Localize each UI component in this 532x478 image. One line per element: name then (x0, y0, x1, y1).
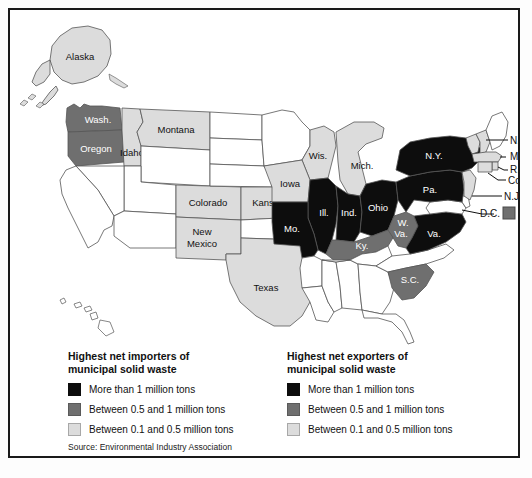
label-virginia: Va. (427, 228, 441, 239)
label-colorado: Colorado (189, 197, 228, 208)
label-michigan: Mich. (351, 160, 374, 171)
legend-exporters-heading: Highest net exporters of municipal solid… (287, 350, 512, 375)
label-wisconsin: Wis. (309, 150, 327, 161)
state-massachusetts[interactable] (472, 152, 502, 162)
swatch-low-icon (68, 423, 81, 436)
state-washington[interactable]: Wash. (66, 104, 122, 132)
alaska-shape (32, 26, 111, 106)
label-illinois: Ill. (319, 207, 329, 218)
legend-item-exporters-low[interactable]: Between 0.1 and 0.5 million tons (287, 422, 512, 436)
state-montana[interactable]: Montana (137, 109, 210, 150)
florida-shape (362, 310, 414, 344)
legend-item-importers-mid[interactable]: Between 0.5 and 1 million tons (68, 402, 283, 416)
swatch-mid-icon (287, 403, 300, 416)
label-iowa: Iowa (280, 178, 301, 189)
state-oregon[interactable]: Oregon (68, 130, 124, 166)
state-rhode-island[interactable] (492, 162, 498, 170)
leader-rhode-island (498, 167, 508, 170)
map-frame: Alaska Wash. Oregon Idaho (8, 8, 520, 458)
label-ohio: Ohio (368, 202, 388, 213)
hawaii-shape (60, 298, 114, 336)
state-north-dakota[interactable] (210, 112, 262, 140)
swatch-high-icon (68, 383, 81, 396)
state-florida[interactable] (362, 310, 414, 344)
state-new-mexico[interactable]: New Mexico (176, 217, 241, 260)
label-new-mexico-line1: New (192, 226, 211, 237)
state-wyoming[interactable] (141, 146, 210, 186)
label-south-carolina: S.C. (401, 274, 419, 285)
legend-exporters: Highest net exporters of municipal solid… (287, 350, 512, 442)
legend-item-importers-low[interactable]: Between 0.1 and 0.5 million tons (68, 422, 283, 436)
label-new-york: N.Y. (425, 150, 442, 161)
minnesota-shape (262, 110, 310, 166)
label-montana: Montana (158, 124, 196, 135)
legend-exporters-mid-label: Between 0.5 and 1 million tons (308, 404, 444, 415)
legend-importers-high-label: More than 1 million tons (89, 384, 195, 395)
leader-connecticut (488, 173, 506, 180)
state-arkansas[interactable] (300, 256, 322, 288)
state-hawaii[interactable] (60, 298, 114, 336)
south-dakota-shape (210, 138, 264, 166)
legend-item-exporters-mid[interactable]: Between 0.5 and 1 million tons (287, 402, 512, 416)
label-new-jersey: N.J. (504, 191, 518, 202)
massachusetts-shape (472, 152, 502, 162)
legend-importers-heading: Highest net importers of municipal solid… (68, 350, 283, 375)
legend-item-exporters-high[interactable]: More than 1 million tons (287, 382, 512, 396)
label-texas: Texas (254, 282, 279, 293)
label-pennsylvania: Pa. (423, 184, 437, 195)
swatch-mid-icon (68, 403, 81, 416)
legend-exporters-high-label: More than 1 million tons (308, 384, 414, 395)
rhode-island-shape (492, 162, 498, 170)
label-connecticut: Conn. (508, 175, 518, 186)
label-district-of-columbia: D.C. (480, 208, 500, 219)
nebraska-shape (210, 164, 272, 187)
state-nebraska[interactable] (210, 164, 272, 187)
wyoming-shape (141, 146, 210, 186)
arizona-shape (114, 211, 176, 248)
label-alaska: Alaska (66, 51, 95, 62)
us-choropleth-map: Alaska Wash. Oregon Idaho (10, 10, 518, 346)
map-legend: Highest net importers of municipal solid… (10, 346, 518, 456)
arkansas-shape (300, 256, 322, 288)
legend-item-importers-high[interactable]: More than 1 million tons (68, 382, 283, 396)
label-massachusetts: Mass. (510, 151, 518, 162)
state-alaska[interactable]: Alaska (20, 26, 128, 108)
label-indiana: Ind. (341, 207, 357, 218)
state-connecticut[interactable] (478, 162, 492, 172)
label-kentucky: Ky. (355, 240, 368, 251)
state-arizona[interactable] (114, 211, 176, 248)
source-attribution: Source: Environmental Industry Associati… (68, 442, 232, 452)
label-new-hampshire: N.H. (510, 135, 518, 146)
label-rhode-island: R.I. (510, 164, 518, 175)
label-oregon: Oregon (80, 143, 112, 154)
swatch-high-icon (287, 383, 300, 396)
figure-root: Alaska Wash. Oregon Idaho (0, 0, 532, 478)
legend-exporters-low-label: Between 0.1 and 0.5 million tons (308, 424, 453, 435)
map-svg: Alaska Wash. Oregon Idaho (10, 10, 518, 346)
legend-importers-low-label: Between 0.1 and 0.5 million tons (89, 424, 234, 435)
label-idaho: Idaho (120, 147, 144, 158)
state-minnesota[interactable] (262, 110, 310, 166)
state-colorado[interactable]: Colorado (176, 185, 241, 220)
swatch-low-icon (287, 423, 300, 436)
label-west-virginia-line2: Va. (394, 228, 408, 239)
label-west-virginia-line1: W. (397, 217, 408, 228)
connecticut-shape (478, 162, 492, 172)
legend-importers-mid-label: Between 0.5 and 1 million tons (89, 404, 225, 415)
north-dakota-shape (210, 112, 262, 140)
state-south-dakota[interactable] (210, 138, 264, 166)
legend-importers: Highest net importers of municipal solid… (68, 350, 283, 442)
dc-color-swatch (503, 207, 515, 219)
label-missouri: Mo. (284, 223, 300, 234)
label-new-mexico-line2: Mexico (187, 238, 217, 249)
label-washington: Wash. (85, 114, 112, 125)
